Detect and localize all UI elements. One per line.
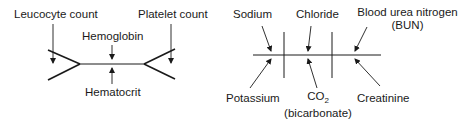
platelet-count-label: Platelet count — [138, 8, 208, 21]
co2-label-line2: (bicarbonate) — [283, 107, 353, 120]
co2-label: CO2 (bicarbonate) — [283, 90, 353, 120]
bun-label-line2: (BUN) — [355, 19, 460, 32]
co2-arrow-icon — [308, 59, 317, 88]
cbc-right-fork-upper — [144, 49, 175, 64]
cbc-left-fork-lower — [48, 64, 80, 80]
chloride-arrow-icon — [308, 26, 311, 51]
hematocrit-label: Hematocrit — [85, 86, 141, 99]
chloride-label: Chloride — [296, 8, 339, 21]
sodium-label: Sodium — [233, 8, 272, 21]
bmp-grid — [250, 26, 381, 88]
hemoglobin-label: Hemoglobin — [82, 30, 143, 43]
bun-label: Blood urea nitrogen (BUN) — [355, 6, 460, 32]
co2-label-line1: CO2 — [283, 90, 353, 107]
sodium-arrow-icon — [262, 26, 271, 51]
leucocyte-count-label: Leucocyte count — [14, 8, 98, 21]
creatinine-arrow-icon — [355, 59, 380, 86]
potassium-label: Potassium — [226, 92, 280, 105]
co2-main: CO — [307, 90, 324, 102]
co2-subscript: 2 — [324, 96, 328, 105]
cbc-right-fork-lower — [144, 64, 175, 79]
bun-label-line1: Blood urea nitrogen — [355, 6, 460, 19]
creatinine-label: Creatinine — [357, 92, 409, 105]
potassium-arrow-icon — [250, 59, 271, 88]
